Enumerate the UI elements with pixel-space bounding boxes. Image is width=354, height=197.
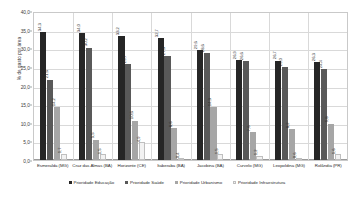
legend-swatch xyxy=(175,181,178,184)
bar-value-label: 24,4 xyxy=(318,60,322,68)
y-tick-label: 35,0 xyxy=(21,28,30,33)
bar-value-label: 4,9 xyxy=(137,136,141,142)
bar-value-label: 34,3 xyxy=(38,23,42,31)
bar-slot: 26,9 xyxy=(236,13,242,160)
bar-group: 29,628,614,31,5 xyxy=(191,13,230,160)
bar-group: 34,030,25,51,5 xyxy=(73,13,112,160)
bar-value-label: 30,2 xyxy=(84,38,88,46)
bar-slot: 34,0 xyxy=(79,13,85,160)
group-separator xyxy=(151,13,152,160)
bar[interactable]: 34,3 xyxy=(40,32,46,160)
group-separator xyxy=(73,13,74,160)
bar-slot: 8,6 xyxy=(171,13,177,160)
y-tick-label: 25,0 xyxy=(21,65,30,70)
bar-value-label: 26,6 xyxy=(240,52,244,60)
bar-slot: 1,5 xyxy=(100,13,106,160)
bar[interactable]: 25,0 xyxy=(282,67,288,160)
bar[interactable]: 4,9 xyxy=(139,142,145,160)
bar-slot: 1,6 xyxy=(335,13,341,160)
bar-value-label: 26,7 xyxy=(272,51,276,59)
bar-value-label: 5,5 xyxy=(91,133,95,139)
bar[interactable]: 27,8 xyxy=(164,56,170,160)
bar-value-label: 1,6 xyxy=(332,148,336,154)
y-tick-mark xyxy=(30,86,32,87)
bar-value-label: 26,3 xyxy=(312,53,316,61)
bar-slot: 32,7 xyxy=(158,13,164,160)
bar[interactable]: 1,2 xyxy=(256,156,262,160)
bar-slot: 33,2 xyxy=(118,13,124,160)
bar-value-label: 28,6 xyxy=(201,44,205,52)
bar[interactable]: 26,6 xyxy=(243,61,249,160)
bar[interactable]: 1,7 xyxy=(61,154,67,160)
bar-slot: 0,4 xyxy=(178,13,184,160)
bar[interactable]: 7,6 xyxy=(250,132,256,160)
x-axis-label: Itaberaba (BA) xyxy=(151,163,190,168)
group-separator xyxy=(230,13,231,160)
bar[interactable]: 0,4 xyxy=(178,158,184,160)
bar[interactable]: 0,6 xyxy=(296,158,302,160)
bar-group: 34,321,614,21,7 xyxy=(34,13,73,160)
bar-value-label: 33,2 xyxy=(116,27,120,35)
bar[interactable]: 1,5 xyxy=(217,154,223,160)
bar-value-label: 34,0 xyxy=(77,24,81,32)
y-tick-mark xyxy=(30,142,32,143)
y-tick-label: 30,0 xyxy=(21,47,30,52)
y-tick-label: 5,0 xyxy=(23,140,30,145)
bar[interactable]: 34,0 xyxy=(79,33,85,160)
bar-slot: 26,3 xyxy=(314,13,320,160)
bar-slot: 1,5 xyxy=(217,13,223,160)
bar[interactable]: 1,6 xyxy=(335,154,341,160)
legend-swatch xyxy=(69,181,72,184)
y-axis-ticks: 0,05,010,015,020,025,030,035,040,0 xyxy=(6,0,32,197)
group-separator xyxy=(191,13,192,160)
bar-value-label: 0,4 xyxy=(176,152,180,158)
group-separator xyxy=(269,13,270,160)
bar-value-label: 25,7 xyxy=(123,55,127,63)
y-tick-mark xyxy=(30,49,32,50)
bar-value-label: 8,2 xyxy=(286,123,290,129)
legend-item[interactable]: Prioridade Urbanismo xyxy=(175,180,222,185)
bar-value-label: 32,7 xyxy=(155,29,159,37)
bar[interactable]: 9,8 xyxy=(328,124,334,161)
bar-slot: 4,9 xyxy=(139,13,145,160)
bar[interactable]: 21,6 xyxy=(47,80,53,160)
bar[interactable]: 30,2 xyxy=(86,48,92,160)
bar-groups: 34,321,614,21,734,030,25,51,533,225,710,… xyxy=(34,13,347,160)
bar-value-label: 1,5 xyxy=(215,149,219,155)
bar-slot: 21,6 xyxy=(47,13,53,160)
y-tick-label: 20,0 xyxy=(21,84,30,89)
bar-slot: 29,6 xyxy=(197,13,203,160)
bar-value-label: 27,8 xyxy=(162,47,166,55)
legend-item[interactable]: Prioridade Educação xyxy=(69,180,115,185)
bar-slot: 8,2 xyxy=(289,13,295,160)
bar-slot: 25,7 xyxy=(125,13,131,160)
bar-slot: 5,5 xyxy=(93,13,99,160)
y-tick-mark xyxy=(30,161,32,162)
bar[interactable]: 26,3 xyxy=(314,62,320,160)
bar[interactable]: 29,6 xyxy=(197,50,203,160)
bar-group: 33,225,710,64,9 xyxy=(112,13,151,160)
bar-slot: 0,6 xyxy=(296,13,302,160)
bar[interactable]: 24,4 xyxy=(321,69,327,160)
bar-value-label: 1,2 xyxy=(254,150,258,156)
x-axis-label: Jacobina (BA) xyxy=(191,163,230,168)
bar[interactable]: 26,9 xyxy=(236,60,242,160)
bar[interactable]: 28,6 xyxy=(204,53,210,160)
legend-label: Prioridade Saúde xyxy=(130,180,164,185)
bar-slot: 14,3 xyxy=(210,13,216,160)
x-axis-label: Rolândia (PR) xyxy=(309,163,348,168)
bar-slot: 1,7 xyxy=(61,13,67,160)
x-axis-label: Cruz das Almas (BA) xyxy=(72,163,112,168)
y-tick-label: 10,0 xyxy=(21,121,30,126)
legend-item[interactable]: Prioridade Saúde xyxy=(125,180,164,185)
bar-group: 26,926,67,61,2 xyxy=(230,13,269,160)
bar[interactable]: 1,5 xyxy=(100,154,106,160)
bar[interactable]: 32,7 xyxy=(158,38,164,160)
bar[interactable]: 26,7 xyxy=(275,61,281,160)
x-axis-label: Curvelo (MG) xyxy=(230,163,269,168)
bar-slot: 1,2 xyxy=(256,13,262,160)
bar-value-label: 14,2 xyxy=(51,98,55,106)
y-tick-mark xyxy=(30,105,32,106)
legend-item[interactable]: Prioridade Infraestrutura xyxy=(233,180,285,185)
x-axis-label: Horizonte (CE) xyxy=(112,163,151,168)
